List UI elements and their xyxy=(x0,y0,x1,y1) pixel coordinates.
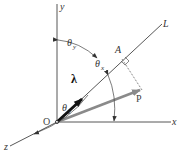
theta-x-arc xyxy=(108,75,115,121)
theta-y-label: θ y xyxy=(67,37,77,51)
svg-text:θ: θ xyxy=(95,58,100,69)
direction-cosines-diagram: y x z O L A P λ θ y θ x θ z xyxy=(0,0,180,150)
svg-text:θ: θ xyxy=(67,37,72,48)
force-P-label: P xyxy=(136,93,142,104)
origin-label: O xyxy=(43,116,50,127)
x-axis-label: x xyxy=(171,116,177,127)
point-A-label: A xyxy=(114,44,122,55)
projection-dashed-line xyxy=(122,59,142,90)
theta-y-arc xyxy=(58,40,97,58)
line-L-label: L xyxy=(162,18,169,29)
svg-text:x: x xyxy=(100,64,105,72)
svg-text:θ: θ xyxy=(62,102,67,113)
theta-x-label: θ x xyxy=(95,58,105,72)
lambda-label: λ xyxy=(71,72,77,86)
y-axis-label: y xyxy=(59,1,65,12)
force-vector-P xyxy=(57,90,140,122)
z-axis-label: z xyxy=(3,141,8,150)
svg-text:z: z xyxy=(67,108,71,116)
